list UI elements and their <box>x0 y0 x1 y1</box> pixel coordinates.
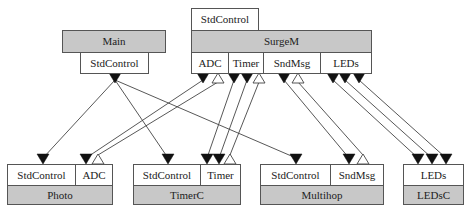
interface-label: StdControl <box>271 170 319 181</box>
interface-label: SndMsg <box>339 170 376 181</box>
photo-stdcontrol-interface: StdControl <box>7 164 76 186</box>
timerc-timer-interface: Timer <box>200 164 241 186</box>
component-multihop-label: Multihop <box>302 190 343 201</box>
interface-label: StdControl <box>201 14 249 25</box>
component-multihop: Multihop <box>260 185 384 205</box>
interface-label: StdControl <box>90 58 138 69</box>
ledsc-leds-interface: LEDs <box>403 164 464 186</box>
interface-label: StdControl <box>143 170 191 181</box>
component-photo: Photo <box>7 185 113 205</box>
component-ledsc: LEDsC <box>403 185 464 205</box>
interface-label: SndMsg <box>274 58 311 69</box>
component-photo-label: Photo <box>47 190 73 201</box>
component-timerc-label: TimerC <box>170 190 204 201</box>
main-stdcontrol-interface: StdControl <box>80 52 149 74</box>
photo-adc-interface: ADC <box>75 164 113 186</box>
interface-label: ADC <box>82 170 105 181</box>
component-main-label: Main <box>102 36 125 47</box>
interface-label: StdControl <box>17 170 65 181</box>
multihop-sndmsg-interface: SndMsg <box>330 164 384 186</box>
interface-label: Timer <box>207 170 234 181</box>
timerc-stdcontrol-interface: StdControl <box>133 164 201 186</box>
component-main: Main <box>62 30 166 53</box>
surgem-sndmsg-interface: SndMsg <box>263 52 321 74</box>
surgem-leds-interface: LEDs <box>320 52 372 74</box>
component-surgem-label: SurgeM <box>264 36 299 47</box>
component-ledsc-label: LEDsC <box>417 190 450 201</box>
component-timerc: TimerC <box>133 185 241 205</box>
figure-caption-remnant <box>175 203 305 213</box>
interface-label: ADC <box>198 58 221 69</box>
surgem-stdcontrol-provided: StdControl <box>191 8 259 31</box>
surgem-timer-interface: Timer <box>228 52 264 74</box>
interface-label: Timer <box>233 58 260 69</box>
component-surgem: SurgeM <box>191 30 372 53</box>
interface-label: LEDs <box>421 170 447 181</box>
multihop-stdcontrol-interface: StdControl <box>260 164 331 186</box>
interface-label: LEDs <box>333 58 359 69</box>
surgem-adc-interface: ADC <box>191 52 229 74</box>
